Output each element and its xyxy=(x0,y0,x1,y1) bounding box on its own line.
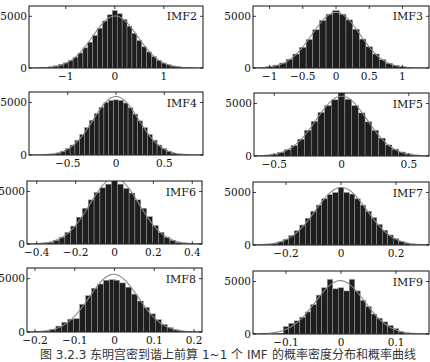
histogram-bar xyxy=(365,122,372,156)
histogram-bar xyxy=(92,288,98,332)
histogram-bar xyxy=(311,121,318,156)
histogram-bar xyxy=(137,41,142,68)
histogram-bar xyxy=(319,20,326,68)
x-tick-label: −0.4 xyxy=(24,246,50,258)
histogram-bar xyxy=(345,99,352,156)
histogram-bar xyxy=(78,53,83,68)
x-tick-label: −0.5 xyxy=(261,158,287,170)
x-tick-label: 0 xyxy=(113,157,120,169)
histogram-bar xyxy=(133,114,138,155)
panel-title: IMF2 xyxy=(167,10,197,23)
histogram-panel-imf4: −0.500.505000IMF4 xyxy=(0,92,203,169)
y-tick-label: 5000 xyxy=(0,96,27,108)
y-tick-label: 0 xyxy=(245,150,252,162)
histogram-bar xyxy=(138,121,143,155)
histogram-bar xyxy=(358,113,365,156)
histogram-bar xyxy=(147,52,152,68)
histogram-bar xyxy=(318,112,325,156)
x-tick-label: 0.5 xyxy=(361,70,378,82)
histogram-bar xyxy=(327,195,333,245)
y-tick-label: 0 xyxy=(244,62,251,74)
y-tick-label: 0 xyxy=(244,328,251,340)
histogram-bar xyxy=(107,15,112,68)
histogram-bar xyxy=(338,188,344,245)
histogram-bar xyxy=(137,301,143,332)
y-tick-label: 5000 xyxy=(0,272,25,284)
histogram-bar xyxy=(118,100,123,155)
histogram-bar xyxy=(366,307,372,334)
histogram-bar xyxy=(114,280,120,332)
histogram-bar xyxy=(93,35,98,68)
histogram-bar xyxy=(98,28,103,68)
histogram-bar xyxy=(106,184,112,244)
panel-title: IMF5 xyxy=(393,98,423,111)
panel-title: IMF9 xyxy=(393,276,423,289)
histogram-bar xyxy=(129,193,135,244)
histogram-bar xyxy=(300,225,306,245)
histogram-bar xyxy=(100,188,106,244)
histogram-bar xyxy=(344,193,350,246)
histogram-bar xyxy=(294,231,300,245)
histogram-bar xyxy=(125,287,131,332)
y-tick-label: 0 xyxy=(18,326,25,338)
panel-title: IMF3 xyxy=(393,10,423,23)
x-tick-label: 0 xyxy=(338,247,345,259)
histogram-panel-imf3: −1−0.500.5105000IMF3 xyxy=(224,6,429,82)
histogram-panel-imf5: −0.500.505000IMF5 xyxy=(225,93,429,170)
histogram-bar xyxy=(359,39,366,68)
y-tick-label: 5000 xyxy=(224,10,251,22)
histogram-bar xyxy=(353,29,360,68)
histogram-bar xyxy=(305,312,311,334)
y-tick-label: 5000 xyxy=(224,275,251,287)
histogram-bar xyxy=(352,106,359,156)
x-tick-label: −0.2 xyxy=(63,246,89,258)
histogram-bar xyxy=(344,291,350,334)
histogram-bar xyxy=(333,11,340,68)
histogram-bar xyxy=(98,284,104,332)
histogram-bar xyxy=(104,280,110,332)
histogram-bar xyxy=(355,199,361,245)
histogram-bar xyxy=(88,42,93,68)
histogram-bar xyxy=(77,217,83,244)
histogram-bar xyxy=(117,184,123,244)
histogram-bar xyxy=(371,314,377,334)
y-tick-label: 5000 xyxy=(225,97,252,109)
x-tick-label: −1 xyxy=(58,70,73,82)
x-tick-label: 0.2 xyxy=(145,246,162,258)
x-tick-label: 0.5 xyxy=(156,157,173,169)
histogram-bar xyxy=(313,30,320,68)
y-tick-label: 5000 xyxy=(224,186,251,198)
histogram-bar xyxy=(109,100,114,155)
histogram-bar xyxy=(360,300,366,334)
histogram-bar xyxy=(382,230,388,245)
histogram-bar xyxy=(360,205,366,245)
histogram-bar xyxy=(349,279,355,334)
x-tick-label: 0.5 xyxy=(400,158,417,170)
y-tick-label: 0 xyxy=(18,238,25,250)
histogram-bar xyxy=(338,93,345,156)
histogram-bar xyxy=(128,108,133,155)
histogram-bar xyxy=(316,295,322,334)
histogram-bar xyxy=(117,14,122,68)
histogram-panel-imf6: −0.4−0.200.20.405000IMF6 xyxy=(0,178,202,258)
histogram-bar xyxy=(142,47,147,68)
histogram-bar xyxy=(122,19,127,68)
histogram-bar xyxy=(104,103,109,156)
y-tick-label: 5000 xyxy=(0,185,25,197)
histogram-bar xyxy=(338,288,344,334)
histogram-bar xyxy=(325,106,332,156)
histogram-bar xyxy=(123,103,128,155)
histogram-bar xyxy=(119,283,125,332)
histogram-bar xyxy=(99,107,104,155)
y-tick-label: 0 xyxy=(20,149,27,161)
y-tick-label: 5000 xyxy=(0,10,27,22)
histogram-bar xyxy=(355,291,361,334)
histogram-bar xyxy=(123,188,129,244)
histogram-bar xyxy=(331,100,338,156)
histogram-bar xyxy=(333,289,339,334)
figure-caption: 图 3.2.3 东明宫密到谐上前算 1~1 个 IMF 的概率密度分布和概率曲线 xyxy=(40,345,430,362)
histogram-bar xyxy=(322,288,328,334)
histogram-bar xyxy=(326,14,333,68)
x-tick-label: −1 xyxy=(262,70,277,82)
panel-title: IMF7 xyxy=(393,187,423,200)
